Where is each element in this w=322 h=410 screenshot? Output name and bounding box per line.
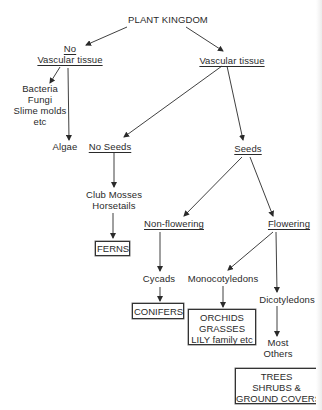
node-most-others: Most Others (263, 337, 292, 359)
node-label: CONIFERS (134, 306, 183, 317)
node-label: Dicotyledons (259, 294, 315, 305)
node-bacteria-group: Bacteria Fungi Slime molds etc (14, 83, 67, 127)
node-label: No Seeds (89, 141, 132, 152)
node-label: Seeds (234, 143, 261, 154)
node-plant-kingdom: PLANT KINGDOM (128, 14, 208, 25)
node-label: Vascular tissue (37, 54, 102, 65)
node-label: Most (263, 337, 292, 348)
node-dicotyledons: Dicotyledons (259, 294, 315, 305)
node-monocotyledons: Monocotyledons (188, 273, 259, 284)
node-label: Vascular tissue (199, 55, 264, 66)
node-label: GROUND COVERS (236, 393, 317, 404)
plant-kingdom-diagram: PLANT KINGDOM No Vascular tissue Vascula… (0, 0, 322, 410)
node-algae: Algae (53, 141, 78, 152)
node-label: Bacteria (14, 83, 67, 94)
node-label: No (37, 43, 102, 54)
box-orchids-grasses-lily: ORCHIDS GRASSES LILY family etc (188, 309, 256, 345)
node-vascular-tissue: Vascular tissue (199, 55, 264, 66)
node-club-mosses: Club Mosses Horsetails (86, 189, 142, 211)
node-label: Club Mosses (86, 189, 142, 200)
page-edge-shadow (316, 0, 322, 410)
node-label: ORCHIDS (190, 312, 254, 323)
node-label: etc (14, 116, 67, 127)
node-label: Fungi (14, 94, 67, 105)
node-flowering: Flowering (268, 218, 310, 229)
node-label: LILY family etc (190, 334, 254, 345)
node-seeds: Seeds (234, 143, 261, 154)
node-label: GRASSES (190, 323, 254, 334)
node-label: Monocotyledons (188, 273, 259, 284)
node-label: Slime molds (14, 105, 67, 116)
node-no-seeds: No Seeds (89, 141, 132, 152)
node-label: Others (263, 348, 292, 359)
node-no-vascular-tissue: No Vascular tissue (37, 43, 102, 65)
box-conifers: CONIFERS (132, 303, 184, 319)
node-label: Non-flowering (144, 218, 204, 229)
node-label: TREES (236, 371, 317, 382)
box-trees-shrubs-ground-covers: TREES SHRUBS & GROUND COVERS (235, 368, 318, 404)
node-label: Algae (53, 141, 78, 152)
node-cycads: Cycads (143, 273, 175, 284)
node-label: Cycads (143, 273, 175, 284)
box-ferns: FERNS (95, 241, 130, 256)
node-label: Horsetails (86, 200, 142, 211)
node-label: FERNS (97, 243, 129, 254)
node-label: SHRUBS & (236, 382, 317, 393)
node-non-flowering: Non-flowering (144, 218, 204, 229)
node-label: Flowering (268, 218, 310, 229)
node-label: PLANT KINGDOM (128, 14, 208, 25)
